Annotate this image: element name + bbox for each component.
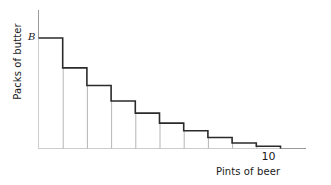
bar-1 — [39, 38, 63, 149]
bar-4 — [111, 101, 135, 149]
bar-6 — [160, 123, 184, 148]
bar-8 — [208, 137, 232, 148]
bar-2 — [63, 68, 87, 149]
x-axis-label: Pints of beer — [216, 166, 280, 177]
bar-5 — [135, 113, 159, 148]
bar-9 — [232, 143, 256, 149]
x-tick-label-10: 10 — [261, 150, 275, 163]
chart-figure: Packs of butter B 10 Pints of beer — [0, 0, 331, 185]
bar-3 — [87, 86, 111, 149]
plot-area — [0, 0, 331, 185]
bar-7 — [184, 131, 208, 149]
